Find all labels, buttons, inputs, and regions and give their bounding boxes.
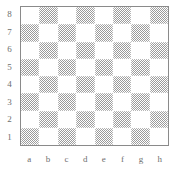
chessboard-grid[interactable] xyxy=(21,7,168,145)
square-f5[interactable] xyxy=(113,59,131,76)
square-b5[interactable] xyxy=(39,59,57,76)
square-g1[interactable] xyxy=(131,128,149,145)
square-g7[interactable] xyxy=(131,24,149,41)
square-a2[interactable] xyxy=(21,111,39,128)
square-e3[interactable] xyxy=(95,93,113,110)
square-f3[interactable] xyxy=(113,93,131,110)
square-f2[interactable] xyxy=(113,111,131,128)
square-a7[interactable] xyxy=(21,24,39,41)
square-e1[interactable] xyxy=(95,128,113,145)
file-label-h: h xyxy=(150,150,169,168)
square-b1[interactable] xyxy=(39,128,57,145)
rank-label-2: 2 xyxy=(0,111,19,129)
square-a8[interactable] xyxy=(21,7,39,24)
square-a4[interactable] xyxy=(21,76,39,93)
rank-label-8: 8 xyxy=(0,6,19,24)
square-e5[interactable] xyxy=(95,59,113,76)
square-b6[interactable] xyxy=(39,42,57,59)
square-h5[interactable] xyxy=(150,59,168,76)
square-c7[interactable] xyxy=(58,24,76,41)
square-e7[interactable] xyxy=(95,24,113,41)
file-label-e: e xyxy=(95,150,114,168)
square-f6[interactable] xyxy=(113,42,131,59)
square-d3[interactable] xyxy=(76,93,94,110)
file-label-c: c xyxy=(57,150,76,168)
file-label-f: f xyxy=(113,150,132,168)
square-c1[interactable] xyxy=(58,128,76,145)
file-label-row: abcdefgh xyxy=(20,150,169,168)
square-b2[interactable] xyxy=(39,111,57,128)
square-g3[interactable] xyxy=(131,93,149,110)
square-e2[interactable] xyxy=(95,111,113,128)
square-c8[interactable] xyxy=(58,7,76,24)
rank-label-6: 6 xyxy=(0,41,19,59)
square-d8[interactable] xyxy=(76,7,94,24)
square-e4[interactable] xyxy=(95,76,113,93)
square-d4[interactable] xyxy=(76,76,94,93)
square-f4[interactable] xyxy=(113,76,131,93)
file-label-a: a xyxy=(20,150,39,168)
square-a5[interactable] xyxy=(21,59,39,76)
square-b4[interactable] xyxy=(39,76,57,93)
square-b8[interactable] xyxy=(39,7,57,24)
square-g8[interactable] xyxy=(131,7,149,24)
square-d5[interactable] xyxy=(76,59,94,76)
square-c6[interactable] xyxy=(58,42,76,59)
square-h3[interactable] xyxy=(150,93,168,110)
square-f8[interactable] xyxy=(113,7,131,24)
square-d2[interactable] xyxy=(76,111,94,128)
square-h1[interactable] xyxy=(150,128,168,145)
file-label-g: g xyxy=(132,150,151,168)
square-c5[interactable] xyxy=(58,59,76,76)
rank-label-column: 87654321 xyxy=(0,6,19,146)
square-b3[interactable] xyxy=(39,93,57,110)
square-a6[interactable] xyxy=(21,42,39,59)
square-g6[interactable] xyxy=(131,42,149,59)
square-e6[interactable] xyxy=(95,42,113,59)
square-b7[interactable] xyxy=(39,24,57,41)
square-c4[interactable] xyxy=(58,76,76,93)
chessboard-figure: 87654321 abcdefgh xyxy=(0,0,178,173)
square-a1[interactable] xyxy=(21,128,39,145)
square-g2[interactable] xyxy=(131,111,149,128)
square-f7[interactable] xyxy=(113,24,131,41)
rank-label-1: 1 xyxy=(0,129,19,147)
rank-label-7: 7 xyxy=(0,24,19,42)
square-d6[interactable] xyxy=(76,42,94,59)
square-h2[interactable] xyxy=(150,111,168,128)
square-a3[interactable] xyxy=(21,93,39,110)
chessboard[interactable] xyxy=(20,6,169,146)
file-label-b: b xyxy=(39,150,58,168)
file-label-d: d xyxy=(76,150,95,168)
square-c3[interactable] xyxy=(58,93,76,110)
square-h8[interactable] xyxy=(150,7,168,24)
square-g4[interactable] xyxy=(131,76,149,93)
rank-label-4: 4 xyxy=(0,76,19,94)
square-d1[interactable] xyxy=(76,128,94,145)
square-f1[interactable] xyxy=(113,128,131,145)
rank-label-3: 3 xyxy=(0,94,19,112)
square-h7[interactable] xyxy=(150,24,168,41)
square-g5[interactable] xyxy=(131,59,149,76)
square-h6[interactable] xyxy=(150,42,168,59)
rank-label-5: 5 xyxy=(0,59,19,77)
square-e8[interactable] xyxy=(95,7,113,24)
square-h4[interactable] xyxy=(150,76,168,93)
square-c2[interactable] xyxy=(58,111,76,128)
square-d7[interactable] xyxy=(76,24,94,41)
